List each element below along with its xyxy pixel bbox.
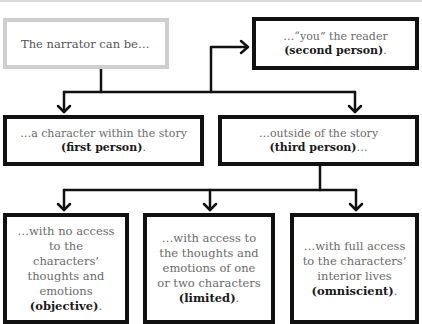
second-person-suffix: . <box>383 44 387 57</box>
first-person-suffix: . <box>142 141 146 154</box>
narrator-root-text: The narrator can be… <box>21 37 149 51</box>
objective-suffix: . <box>99 299 103 313</box>
objective-box: …with no access to the characters’ thoug… <box>3 213 129 324</box>
third-person-suffix: … <box>356 141 367 154</box>
first-person-label: (first person) <box>61 141 142 154</box>
second-person-text: …“you” the reader <box>283 30 387 43</box>
limited-label: (limited) <box>179 291 236 305</box>
omniscient-suffix: . <box>394 284 398 298</box>
limited-suffix: . <box>236 291 240 305</box>
omniscient-box: …with full access to the characters’ int… <box>290 213 419 324</box>
third-person-text: …outside of the story <box>259 127 378 140</box>
narrator-root-box: The narrator can be… <box>3 18 169 69</box>
limited-text: …with access to the thoughts and emotion… <box>157 231 260 290</box>
second-person-label: (second person) <box>284 44 383 57</box>
first-person-box: …a character within the story (first per… <box>3 115 204 166</box>
third-person-box: …outside of the story (third person)… <box>218 115 419 166</box>
omniscient-text: …with full access to the characters’ int… <box>303 239 407 283</box>
first-person-text: …a character within the story <box>20 127 187 140</box>
second-person-box: …“you” the reader (second person). <box>252 17 419 70</box>
third-person-label: (third person) <box>269 141 356 154</box>
omniscient-label: (omniscient) <box>312 284 394 298</box>
objective-text: …with no access to the characters’ thoug… <box>17 224 114 298</box>
limited-box: …with access to the thoughts and emotion… <box>143 213 275 324</box>
objective-label: (objective) <box>30 299 99 313</box>
